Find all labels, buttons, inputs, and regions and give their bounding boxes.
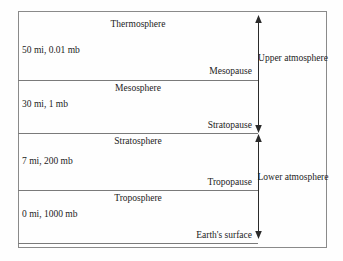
region-label-upper-atmosphere: Upper atmosphere bbox=[253, 52, 333, 64]
boundary-line-tropopause bbox=[18, 190, 258, 191]
boundary-line-stratopause bbox=[18, 133, 258, 134]
boundary-label-stratopause: Stratopause bbox=[18, 120, 252, 131]
boundary-label-mesopause: Mesopause bbox=[18, 66, 252, 77]
layer-label-thermosphere: Thermosphere bbox=[18, 19, 258, 30]
layer-label-troposphere: Troposphere bbox=[18, 193, 258, 204]
boundary-line-mesopause bbox=[18, 80, 258, 81]
boundary-label-earths-surface: Earth's surface bbox=[18, 230, 252, 241]
layer-label-stratosphere: Stratosphere bbox=[18, 136, 258, 147]
altitude-marker-0mi: 0 mi, 1000 mb bbox=[22, 209, 77, 220]
region-label-lower-atmosphere: Lower atmosphere bbox=[253, 171, 333, 183]
layer-label-mesosphere: Mesosphere bbox=[18, 83, 258, 94]
boundary-label-tropopause: Tropopause bbox=[18, 177, 252, 188]
upper-atmosphere-arrow bbox=[252, 15, 265, 133]
altitude-marker-7mi: 7 mi, 200 mb bbox=[22, 156, 73, 167]
altitude-marker-30mi: 30 mi, 1 mb bbox=[22, 99, 68, 110]
double-headed-arrow-icon bbox=[252, 15, 265, 133]
altitude-marker-50mi: 50 mi, 0.01 mb bbox=[22, 45, 80, 56]
double-headed-arrow-icon bbox=[252, 134, 265, 239]
atmosphere-layers-diagram: Thermosphere Mesosphere Stratosphere Tro… bbox=[0, 0, 343, 261]
lower-atmosphere-arrow bbox=[252, 134, 265, 239]
boundary-line-earths-surface bbox=[18, 243, 258, 244]
